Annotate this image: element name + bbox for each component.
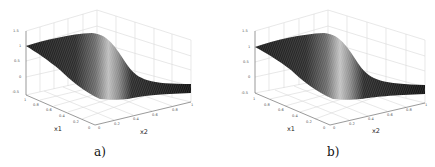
svg-text:1: 1 bbox=[24, 98, 26, 102]
svg-text:0.6: 0.6 bbox=[152, 113, 158, 117]
x1-axis-label: x1 bbox=[287, 125, 295, 133]
x2-ticks: 0 0.2 0.4 0.6 0.8 1 bbox=[98, 103, 193, 130]
svg-text:0: 0 bbox=[98, 126, 101, 130]
surface-plot-a: 1.5 1 0.5 0 -0.5 1 0.8 0.6 0.4 0.2 0 0 0… bbox=[0, 0, 218, 167]
svg-text:-0.5: -0.5 bbox=[12, 90, 19, 94]
x2-axis-label: x2 bbox=[140, 128, 148, 136]
x1-axis-label: x1 bbox=[54, 125, 62, 133]
svg-text:0.8: 0.8 bbox=[33, 103, 39, 107]
plot-b-graphic: 1.5 1 0.5 0 -0.5 1 0.8 0.6 0.4 0.2 0 0 0… bbox=[231, 0, 435, 167]
svg-text:0.2: 0.2 bbox=[349, 122, 355, 126]
caption-b: b) bbox=[327, 145, 339, 159]
svg-text:0.4: 0.4 bbox=[133, 117, 139, 121]
svg-text:1.5: 1.5 bbox=[242, 29, 248, 33]
svg-text:1: 1 bbox=[425, 103, 427, 107]
svg-text:0.5: 0.5 bbox=[14, 59, 20, 63]
caption-a: a) bbox=[94, 145, 106, 159]
surface-plot-b: 1.5 1 0.5 0 -0.5 1 0.8 0.6 0.4 0.2 0 0 0… bbox=[231, 0, 435, 167]
svg-text:-0.5: -0.5 bbox=[241, 91, 248, 95]
svg-text:0.8: 0.8 bbox=[406, 108, 412, 112]
svg-text:1: 1 bbox=[248, 45, 250, 49]
svg-text:0: 0 bbox=[19, 75, 22, 79]
x2-axis-label: x2 bbox=[372, 127, 380, 135]
svg-text:0.4: 0.4 bbox=[59, 114, 65, 118]
svg-text:0.2: 0.2 bbox=[306, 120, 312, 124]
svg-text:0.8: 0.8 bbox=[264, 103, 270, 107]
svg-text:1: 1 bbox=[19, 44, 21, 48]
svg-text:1: 1 bbox=[253, 97, 255, 101]
svg-text:1.5: 1.5 bbox=[13, 29, 19, 33]
svg-text:0.4: 0.4 bbox=[292, 114, 298, 118]
svg-text:0.6: 0.6 bbox=[46, 108, 52, 112]
svg-text:0: 0 bbox=[248, 75, 251, 79]
svg-text:0.2: 0.2 bbox=[73, 120, 79, 124]
svg-text:0.6: 0.6 bbox=[387, 113, 393, 117]
svg-text:0.5: 0.5 bbox=[243, 60, 249, 64]
svg-text:0: 0 bbox=[333, 126, 336, 130]
svg-text:0.4: 0.4 bbox=[368, 117, 374, 121]
svg-text:0.2: 0.2 bbox=[114, 122, 120, 126]
svg-text:1: 1 bbox=[191, 103, 193, 107]
plot-a-graphic: 1.5 1 0.5 0 -0.5 1 0.8 0.6 0.4 0.2 0 0 0… bbox=[0, 0, 218, 167]
svg-text:0.6: 0.6 bbox=[278, 108, 284, 112]
svg-text:0: 0 bbox=[323, 126, 326, 130]
z-ticks: 1.5 1 0.5 0 -0.5 bbox=[12, 29, 22, 94]
svg-text:0: 0 bbox=[88, 126, 91, 130]
z-ticks: 1.5 1 0.5 0 -0.5 bbox=[241, 29, 251, 95]
svg-text:0.8: 0.8 bbox=[172, 108, 178, 112]
